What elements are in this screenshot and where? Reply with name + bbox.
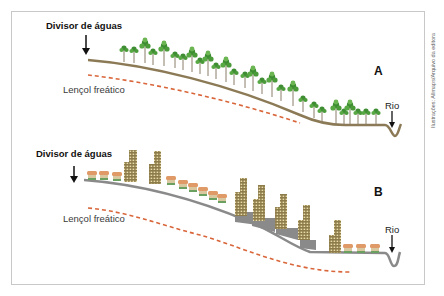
- panel-a-divider-arrow: [82, 35, 90, 55]
- panel-a-water-table-label: Lençol freático: [63, 84, 125, 95]
- panel-b-river-arrow: [389, 235, 395, 253]
- panel-b-divider-arrow: [70, 166, 78, 183]
- forest-trees: [119, 38, 380, 125]
- panel-b-divider-label: Divisor de águas: [36, 148, 112, 159]
- diagram: Divisor de águas Lençol freático A Rio D…: [0, 0, 444, 296]
- panel-a-river-arrow: [389, 111, 395, 128]
- panel-a-label: A: [374, 64, 383, 78]
- panel-b-water-table-label: Lençol freático: [63, 213, 125, 224]
- image-credit: Ilustrações: Allmaps/Arquivo da editora: [430, 33, 436, 128]
- panel-a-ground: [88, 60, 401, 136]
- panel-a-divider-label: Divisor de águas: [46, 20, 122, 31]
- panel-b-label: B: [374, 185, 383, 199]
- panel-b-river-label: Rio: [385, 224, 399, 235]
- panel-a-river-label: Rio: [385, 100, 399, 111]
- buildings: [124, 150, 341, 253]
